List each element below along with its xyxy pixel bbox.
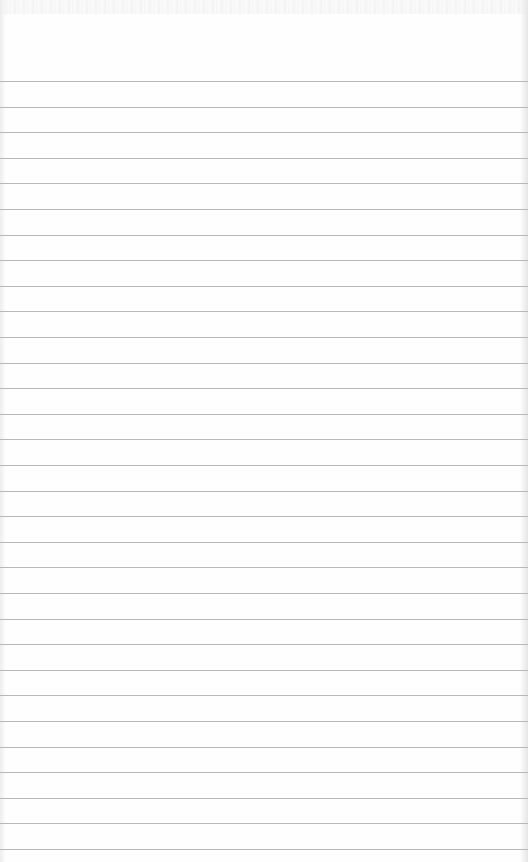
ruled-line bbox=[0, 286, 528, 287]
ruled-line bbox=[0, 567, 528, 568]
ruled-line bbox=[0, 260, 528, 261]
ruled-lines bbox=[0, 0, 528, 862]
lined-paper bbox=[0, 0, 528, 862]
ruled-line bbox=[0, 465, 528, 466]
ruled-line bbox=[0, 388, 528, 389]
ruled-line bbox=[0, 619, 528, 620]
ruled-line bbox=[0, 439, 528, 440]
ruled-line bbox=[0, 158, 528, 159]
ruled-line bbox=[0, 644, 528, 645]
ruled-line bbox=[0, 132, 528, 133]
ruled-line bbox=[0, 747, 528, 748]
ruled-line bbox=[0, 107, 528, 108]
ruled-line bbox=[0, 491, 528, 492]
ruled-line bbox=[0, 363, 528, 364]
ruled-line bbox=[0, 235, 528, 236]
ruled-line bbox=[0, 772, 528, 773]
ruled-line bbox=[0, 209, 528, 210]
ruled-line bbox=[0, 337, 528, 338]
ruled-line bbox=[0, 721, 528, 722]
ruled-line bbox=[0, 695, 528, 696]
ruled-line bbox=[0, 516, 528, 517]
ruled-line bbox=[0, 593, 528, 594]
ruled-line bbox=[0, 670, 528, 671]
ruled-line bbox=[0, 798, 528, 799]
ruled-line bbox=[0, 849, 528, 850]
ruled-line bbox=[0, 823, 528, 824]
ruled-line bbox=[0, 414, 528, 415]
ruled-line bbox=[0, 81, 528, 82]
ruled-line bbox=[0, 311, 528, 312]
ruled-line bbox=[0, 542, 528, 543]
ruled-line bbox=[0, 183, 528, 184]
